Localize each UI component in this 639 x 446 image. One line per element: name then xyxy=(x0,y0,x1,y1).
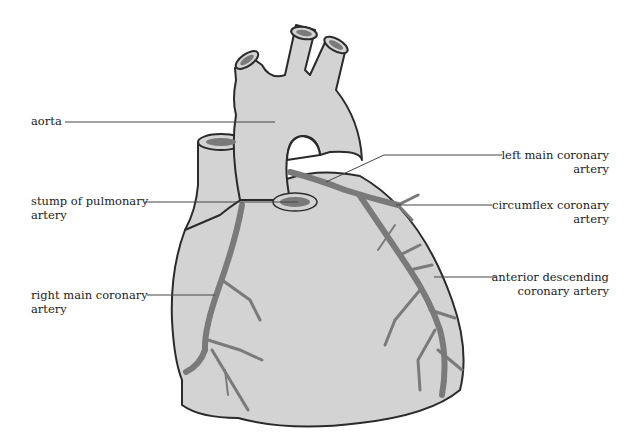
label-right-main-line2: artery xyxy=(31,302,148,316)
heart-diagram: aorta stump of pulmonary artery right ma… xyxy=(0,0,639,446)
label-aorta: aorta xyxy=(31,114,62,128)
label-circumflex-line2: artery xyxy=(492,212,609,226)
label-left-main-line1: left main coronary xyxy=(501,148,609,162)
label-left-main-coronary: left main coronary artery xyxy=(501,148,609,176)
label-pulmonary-line2: artery xyxy=(31,208,148,222)
label-circumflex-coronary: circumflex coronary artery xyxy=(492,198,609,226)
label-pulmonary-line1: stump of pulmonary xyxy=(31,194,148,208)
label-circumflex-line1: circumflex coronary xyxy=(492,198,609,212)
label-aorta-text: aorta xyxy=(31,114,62,128)
label-right-main-line1: right main coronary xyxy=(31,288,148,302)
label-right-main-coronary: right main coronary artery xyxy=(31,288,148,316)
label-anterior-desc-line1: anterior descending xyxy=(492,270,609,284)
label-left-main-line2: artery xyxy=(501,162,609,176)
label-pulmonary-stump: stump of pulmonary artery xyxy=(31,194,148,222)
label-anterior-descending: anterior descending coronary artery xyxy=(492,270,609,298)
label-anterior-desc-line2: coronary artery xyxy=(492,284,609,298)
